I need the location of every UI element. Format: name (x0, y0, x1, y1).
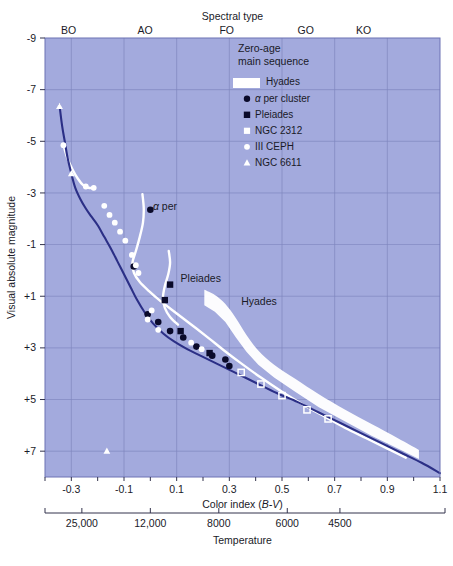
data-point-alpha-per-cluster (193, 343, 200, 350)
data-point-alpha-per-cluster (180, 334, 187, 341)
x-axis-tick-label: -0.1 (115, 483, 133, 495)
y-axis-tick-label: +7 (24, 445, 36, 457)
data-point-iii-ceph (91, 185, 97, 191)
legend-item-pleiades-swatch (244, 112, 250, 118)
spectral-type-label: FO (219, 24, 234, 36)
legend-item--per-cluster-swatch (244, 96, 250, 102)
x-axis-tick-label: 0.5 (275, 483, 290, 495)
spectral-type-label: AO (137, 24, 152, 36)
x-axis-title: Color index (B-V) (202, 498, 283, 510)
y-axis-tick-label: -1 (27, 238, 36, 250)
temperature-tick-label: 25,000 (66, 517, 98, 529)
y-axis-tick-label: +5 (24, 393, 36, 405)
top-axis-title: Spectral type (202, 10, 263, 22)
data-point-iii-ceph (199, 346, 205, 352)
data-point-iii-ceph (136, 270, 142, 276)
data-point-iii-ceph (83, 184, 89, 190)
legend-item-ngc-2312-swatch (244, 128, 250, 134)
data-point-iii-ceph (122, 238, 128, 244)
legend-item--per-cluster-label: α per cluster (255, 93, 311, 104)
legend-title-line1: Zero-age (238, 42, 281, 54)
y-axis-tick-label: +3 (24, 341, 36, 353)
data-point-iii-ceph (155, 327, 161, 333)
temperature-tick-label: 8000 (207, 517, 231, 529)
legend-title-line2: main sequence (238, 55, 309, 67)
legend-item-ngc-2312-label: NGC 2312 (255, 125, 303, 136)
data-point-alpha-per-cluster (222, 356, 229, 363)
legend-item-hyades-label: Hyades (266, 76, 300, 87)
y-axis-tick-label: -3 (27, 187, 36, 199)
data-point-alpha-per-cluster (226, 363, 233, 370)
plot-background (45, 38, 440, 477)
data-point-iii-ceph (133, 262, 139, 268)
x-axis-tick-label: 1.1 (433, 483, 448, 495)
data-point-iii-ceph (145, 317, 151, 323)
data-point-iii-ceph (112, 220, 118, 226)
y-axis-tick-label: -7 (27, 83, 36, 95)
y-axis-tick-label: -5 (27, 135, 36, 147)
x-axis-tick-label: 0.3 (222, 483, 237, 495)
data-point-pleiades (162, 297, 168, 303)
temperature-tick-label: 6000 (276, 517, 300, 529)
legend-item-hyades-swatch (233, 78, 260, 88)
data-point-pleiades (167, 281, 173, 287)
data-point-iii-ceph (129, 252, 135, 258)
temperature-tick-label: 4500 (328, 517, 352, 529)
temperature-axis-title: Temperature (213, 534, 272, 546)
data-point-iii-ceph (117, 229, 123, 235)
x-axis-tick-label: 0.9 (380, 483, 395, 495)
annotation-pleiades: Pleiades (181, 272, 221, 284)
data-point-pleiades (177, 328, 183, 334)
y-axis-tick-label: +1 (24, 290, 36, 302)
data-point-iii-ceph (107, 212, 113, 218)
legend-item-iii-ceph-swatch (244, 144, 250, 150)
legend-item-pleiades-label: Pleiades (255, 109, 293, 120)
y-axis-title: Visual absolute magnitude (5, 196, 17, 319)
data-point-alpha-per-cluster (167, 328, 174, 335)
x-axis-tick-label: 0.7 (327, 483, 342, 495)
legend-item-ngc-6611-label: NGC 6611 (255, 157, 302, 168)
hr-diagram-svg: α perPleiadesHyadesZero-agemain sequence… (0, 0, 453, 566)
temperature-tick-label: 12,000 (134, 517, 166, 529)
spectral-type-label: BO (61, 24, 76, 36)
data-point-iii-ceph (101, 203, 107, 209)
x-axis-tick-label: -0.3 (62, 483, 80, 495)
data-point-iii-ceph (149, 308, 155, 314)
data-point-iii-ceph (61, 142, 67, 148)
data-point-iii-ceph (188, 340, 194, 346)
data-point-alpha-per-cluster (155, 319, 162, 326)
hr-diagram-figure: α perPleiadesHyadesZero-agemain sequence… (0, 0, 453, 566)
spectral-type-label: GO (298, 24, 314, 36)
annotation-alpha-per: α per (153, 200, 178, 212)
x-axis-tick-label: 0.1 (169, 483, 184, 495)
spectral-type-label: KO (356, 24, 371, 36)
y-axis-tick-label: -9 (27, 32, 36, 44)
annotation-hyades: Hyades (241, 295, 277, 307)
legend-item-iii-ceph-label: III CEPH (255, 141, 294, 152)
data-point-pleiades (206, 350, 212, 356)
